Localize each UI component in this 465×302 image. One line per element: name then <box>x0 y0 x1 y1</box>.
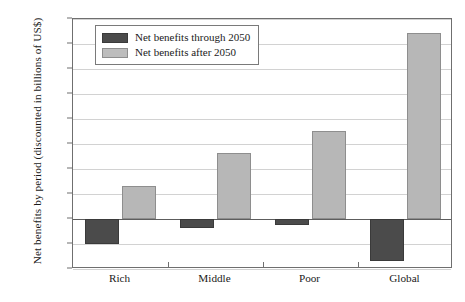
gridline-3-000 <box>73 144 451 145</box>
legend-label-after-2050: Net benefits after 2050 <box>135 46 236 59</box>
legend-item-through-2050: Net benefits through 2050 <box>102 30 250 45</box>
gridline-2-000 <box>73 169 451 170</box>
bar-global-after-2050 <box>407 33 441 219</box>
y-axis-title: Net benefits by period (discounted in bi… <box>31 0 43 286</box>
x-tick-mark <box>168 262 169 267</box>
legend-swatch-dark <box>102 33 128 43</box>
legend-item-after-2050: Net benefits after 2050 <box>102 45 250 60</box>
legend-swatch-light <box>102 48 128 58</box>
gridline-2-000 <box>73 269 451 270</box>
bar-rich-through-2050 <box>85 219 119 244</box>
gridline-5-000 <box>73 94 451 95</box>
chart-figure: Net benefits by period (discounted in bi… <box>0 0 465 302</box>
plot-area: Net benefits through 2050 Net benefits a… <box>72 18 452 268</box>
bar-poor-through-2050 <box>275 219 309 225</box>
gridline-8-000 <box>73 19 451 20</box>
x-axis-label-global: Global <box>360 272 450 284</box>
bar-rich-after-2050 <box>122 186 156 219</box>
gridline-4-000 <box>73 119 451 120</box>
x-tick-mark <box>358 262 359 267</box>
x-axis-label-middle: Middle <box>170 272 260 284</box>
legend-label-through-2050: Net benefits through 2050 <box>135 31 250 44</box>
bar-middle-through-2050 <box>180 219 214 228</box>
x-axis-label-poor: Poor <box>265 272 355 284</box>
bar-global-through-2050 <box>370 219 404 261</box>
x-tick-mark <box>263 262 264 267</box>
x-axis-label-rich: Rich <box>75 272 165 284</box>
bar-middle-after-2050 <box>217 153 251 219</box>
bar-poor-after-2050 <box>312 131 346 219</box>
gridline-6-000 <box>73 69 451 70</box>
chart-legend: Net benefits through 2050 Net benefits a… <box>95 25 259 65</box>
